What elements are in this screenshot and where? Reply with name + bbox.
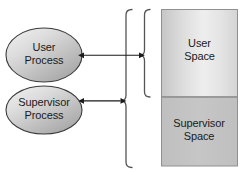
diagram-canvas: User Process Supervisor Process User Spa…: [0, 0, 247, 173]
space-stack: [162, 10, 238, 167]
supervisor-process-ellipse: [6, 86, 82, 134]
diagram-graphics: [0, 0, 247, 173]
supervisor-process-node: [6, 86, 82, 134]
user-space-box: [162, 10, 238, 98]
user-process-ellipse: [6, 28, 82, 82]
supervisor-space-box: [162, 97, 238, 166]
inner-bracket: [141, 10, 151, 98]
outer-bracket: [122, 10, 133, 168]
user-process-node: [6, 28, 82, 82]
